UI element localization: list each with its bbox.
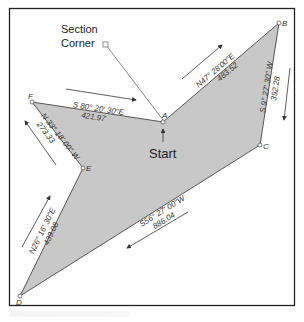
station-a-label: A [161, 111, 167, 120]
station-e-label: E [86, 164, 92, 173]
station-c-marker [258, 143, 262, 147]
traverse-diagram: Section Corner Start A B C D E F N47° 28… [0, 0, 304, 322]
station-a-marker [161, 120, 165, 124]
station-d-label: D [16, 298, 22, 307]
station-b-label: B [282, 19, 288, 28]
section-corner-marker [103, 42, 108, 47]
station-c-label: C [263, 142, 269, 151]
station-e-marker [81, 166, 85, 170]
section-corner-label: Section [61, 23, 98, 35]
start-label: Start [149, 146, 177, 161]
section-corner-label-2: Corner [61, 37, 95, 49]
station-b-marker [277, 21, 281, 25]
figure-caption [10, 311, 130, 317]
